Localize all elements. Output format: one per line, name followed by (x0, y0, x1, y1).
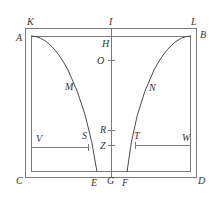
label-Z: Z (100, 140, 106, 151)
label-V: V (36, 133, 44, 144)
label-L: L (190, 16, 197, 27)
label-E: E (90, 177, 97, 188)
label-C: C (16, 175, 23, 186)
label-N: N (148, 82, 157, 93)
label-F: F (121, 177, 129, 188)
label-O: O (97, 55, 104, 66)
label-H: H (101, 38, 110, 49)
label-B: B (200, 29, 206, 40)
label-S: S (82, 130, 87, 141)
label-R: R (99, 124, 106, 135)
label-D: D (197, 175, 206, 186)
curve-AE (31, 36, 97, 172)
label-K: K (26, 16, 35, 27)
diagram-canvas: K I L A H B O M N R V S Z T W C E G F D (0, 0, 219, 200)
label-M: M (64, 81, 74, 92)
label-A: A (15, 32, 23, 43)
label-I: I (108, 16, 113, 27)
label-T: T (134, 130, 141, 141)
label-G: G (107, 175, 114, 186)
curve-BF (127, 36, 191, 172)
